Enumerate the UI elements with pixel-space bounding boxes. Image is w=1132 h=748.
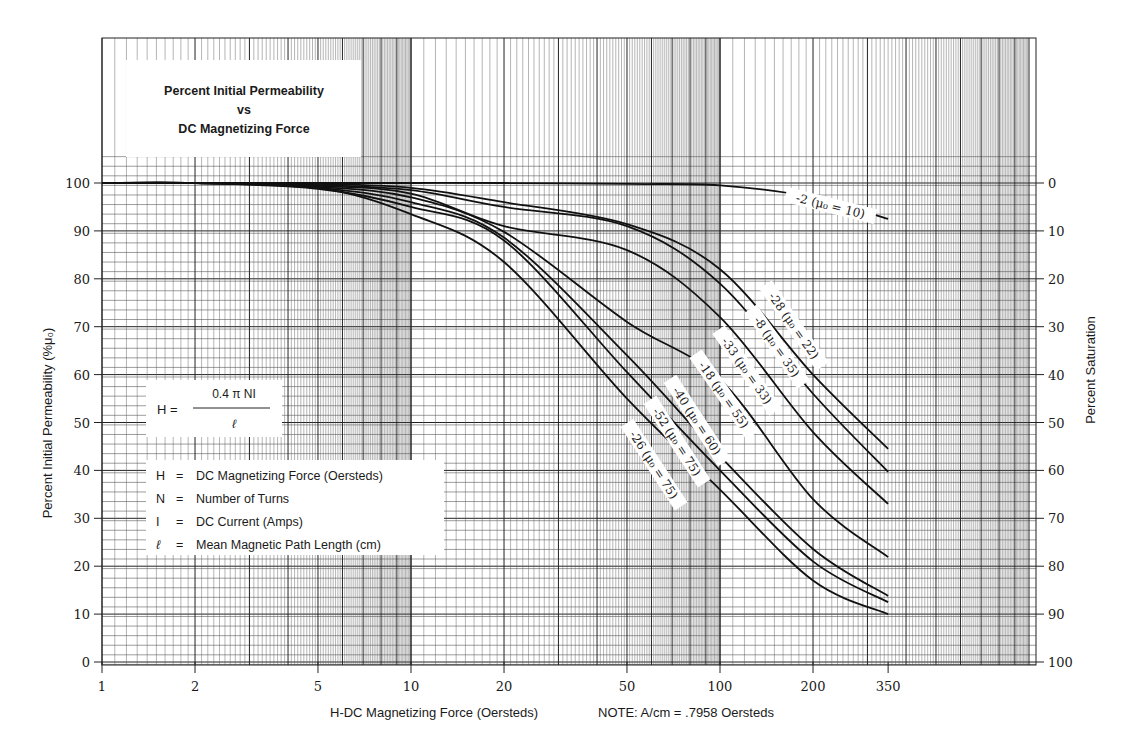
y-right-tick-label: 20 <box>1048 272 1065 287</box>
y-tick-label: 40 <box>73 463 90 478</box>
x-tick-label: 5 <box>314 679 322 694</box>
y-right-tick-label: 100 <box>1048 655 1073 670</box>
y-axis-right-title: Percent Saturation <box>1083 316 1098 424</box>
y-right-tick-label: 80 <box>1048 559 1065 574</box>
x-tick-label: 350 <box>876 679 901 694</box>
title-box: Percent Initial Permeability vs DC Magne… <box>126 60 361 157</box>
y-tick-label: 50 <box>73 416 90 431</box>
y-tick-label: 30 <box>73 511 90 526</box>
y-tick-label: 80 <box>73 272 90 287</box>
definition-symbol: H <box>156 469 165 483</box>
x-tick-label: 2 <box>191 679 199 694</box>
permeability-chart: Percent Initial Permeability vs DC Magne… <box>0 0 1132 748</box>
y-right-tick-label: 50 <box>1048 416 1065 431</box>
chart-title-line-2: vs <box>237 103 251 117</box>
y-axis-title: Percent Initial Permeability (%μ₀) <box>40 328 55 519</box>
x-axis-title: H-DC Magnetizing Force (Oersteds) <box>330 705 538 720</box>
y-tick-label: 70 <box>73 320 90 335</box>
y-tick-label: 20 <box>73 559 90 574</box>
x-tick-label: 200 <box>801 679 826 694</box>
formula-box: H = 0.4 π NI ℓ <box>146 380 282 437</box>
y-right-tick-label: 10 <box>1048 224 1065 239</box>
chart-title-line-1: Percent Initial Permeability <box>164 84 324 98</box>
x-tick-label: 100 <box>708 679 733 694</box>
y-tick-label: 60 <box>73 368 90 383</box>
x-axis-note: NOTE: A/cm = .7958 Oersteds <box>598 705 774 720</box>
x-tick-label: 20 <box>496 679 513 694</box>
definition-text: DC Current (Amps) <box>196 515 303 529</box>
y-right-tick-label: 0 <box>1048 176 1056 191</box>
chart-title-line-3: DC Magnetizing Force <box>178 122 309 136</box>
y-tick-label: 10 <box>73 607 90 622</box>
definition-equals: = <box>176 492 183 506</box>
y-tick-label: 90 <box>73 224 90 239</box>
definition-symbol: N <box>156 492 165 506</box>
y-right-tick-label: 30 <box>1048 320 1065 335</box>
y-tick-label: 100 <box>65 176 90 191</box>
y-right-tick-label: 90 <box>1048 607 1065 622</box>
y-right-tick-label: 40 <box>1048 368 1065 383</box>
definition-row: I = DC Current (Amps) <box>156 515 303 529</box>
definitions-box: H = DC Magnetizing Force (Oersteds) N = … <box>146 460 444 555</box>
y-right-tick-label: 70 <box>1048 511 1065 526</box>
x-tick-label: 10 <box>403 679 420 694</box>
definition-equals: = <box>176 538 183 552</box>
definition-text: DC Magnetizing Force (Oersteds) <box>196 469 383 483</box>
definition-text: Number of Turns <box>196 492 289 506</box>
definition-row: N = Number of Turns <box>156 492 289 506</box>
x-tick-label: 50 <box>619 679 636 694</box>
definition-text: Mean Magnetic Path Length (cm) <box>196 538 381 552</box>
y-tick-label: 0 <box>82 655 90 670</box>
formula-numerator: 0.4 π NI <box>212 387 256 401</box>
definition-symbol: I <box>156 515 159 529</box>
formula-lhs: H = <box>157 402 178 417</box>
definition-equals: = <box>176 515 183 529</box>
x-tick-label: 1 <box>98 679 106 694</box>
definition-equals: = <box>176 469 183 483</box>
y-right-tick-label: 60 <box>1048 463 1065 478</box>
